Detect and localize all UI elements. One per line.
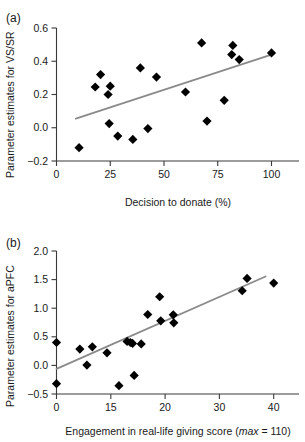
x-tick-label: 20 xyxy=(159,401,171,413)
x-tick-label: 30 xyxy=(214,401,226,413)
data-point-marker xyxy=(104,90,113,99)
data-point-marker xyxy=(169,318,178,327)
panel-a-label: (a) xyxy=(6,11,21,25)
panel-b-y-axis-title: Parameter estimates for aPFC xyxy=(4,265,16,407)
panel-a-y-axis: −0.20.00.20.40.6 xyxy=(27,22,56,167)
y-tick-label: 0.6 xyxy=(33,22,48,34)
x-tick-label: 100 xyxy=(263,168,281,180)
y-tick-label: 0.0 xyxy=(33,121,48,133)
data-point-marker xyxy=(128,135,137,144)
data-point-marker xyxy=(181,87,190,96)
x-tick-label: 25 xyxy=(104,168,116,180)
data-point-marker xyxy=(114,381,123,390)
data-point-marker xyxy=(143,310,152,319)
y-tick-label: −0.5 xyxy=(27,388,48,400)
panel-b-x-axis-title: Engagement in real-life giving score (ma… xyxy=(65,425,290,437)
data-point-marker xyxy=(52,338,61,347)
y-tick-label: 0.2 xyxy=(33,88,48,100)
data-point-marker xyxy=(74,143,83,152)
data-point-marker xyxy=(113,131,122,140)
data-point-marker xyxy=(155,292,164,301)
regression-line xyxy=(76,55,272,119)
data-point-marker xyxy=(220,96,229,105)
y-tick-label: 1.5 xyxy=(33,273,48,285)
x-tick-label: 40 xyxy=(268,401,280,413)
y-tick-label: 1.0 xyxy=(33,302,48,314)
panel-b-x-axis: 015203040 xyxy=(54,394,299,413)
panel-a-data-points xyxy=(74,38,276,152)
panel-a-x-ticks: 0255075100 xyxy=(54,161,281,180)
panel-b-label: (b) xyxy=(6,236,21,250)
panel-b-y-axis: −0.50.00.51.01.52.0 xyxy=(27,245,56,400)
data-point-marker xyxy=(227,50,236,59)
y-tick-label: 0.5 xyxy=(33,330,48,342)
data-point-marker xyxy=(136,63,145,72)
scatter-chart-a: (a) Parameter estimates for VS/SR −0.20.… xyxy=(0,0,305,221)
data-point-marker xyxy=(137,339,146,348)
x-tick-label: 50 xyxy=(158,168,170,180)
panel-a-y-axis-title: Parameter estimates for VS/SR xyxy=(4,31,16,178)
data-point-marker xyxy=(143,124,152,133)
data-point-marker xyxy=(152,72,161,81)
data-point-marker xyxy=(243,274,252,283)
data-point-marker xyxy=(202,117,211,126)
data-point-marker xyxy=(269,278,278,287)
y-tick-label: 2.0 xyxy=(33,245,48,257)
panel-a-trend-line xyxy=(76,55,272,119)
data-point-marker xyxy=(106,82,115,91)
panel-a-x-axis-title: Decision to donate (%) xyxy=(125,196,231,208)
panel-b-x-ticks: 015203040 xyxy=(54,394,280,413)
data-point-marker xyxy=(228,41,237,50)
data-point-marker xyxy=(91,82,100,91)
figure-container: (a) Parameter estimates for VS/SR −0.20.… xyxy=(0,0,305,442)
panel-b: (b) Parameter estimates for aPFC −0.50.0… xyxy=(0,221,305,442)
y-tick-label: 0.0 xyxy=(33,359,48,371)
y-tick-label: 0.4 xyxy=(33,55,48,67)
panel-b-y-ticks: −0.50.00.51.01.52.0 xyxy=(27,245,56,400)
data-point-marker xyxy=(102,348,111,357)
panel-a: (a) Parameter estimates for VS/SR −0.20.… xyxy=(0,0,305,221)
data-point-marker xyxy=(235,55,244,64)
panel-b-data-points xyxy=(52,274,278,390)
x-tick-label: 0 xyxy=(54,168,60,180)
data-point-marker xyxy=(96,70,105,79)
x-tick-label: 15 xyxy=(105,401,117,413)
panel-a-y-ticks: −0.20.00.20.40.6 xyxy=(27,22,56,167)
data-point-marker xyxy=(197,38,206,47)
panel-a-x-axis: 0255075100 xyxy=(54,161,299,180)
data-point-marker xyxy=(105,119,114,128)
x-tick-label: 0 xyxy=(54,401,60,413)
data-point-marker xyxy=(75,344,84,353)
data-point-marker xyxy=(52,379,61,388)
y-tick-label: −0.2 xyxy=(27,155,48,167)
scatter-chart-b: (b) Parameter estimates for aPFC −0.50.0… xyxy=(0,221,305,442)
data-point-marker xyxy=(130,371,139,380)
data-point-marker xyxy=(82,361,91,370)
x-tick-label: 75 xyxy=(212,168,224,180)
data-point-marker xyxy=(88,342,97,351)
